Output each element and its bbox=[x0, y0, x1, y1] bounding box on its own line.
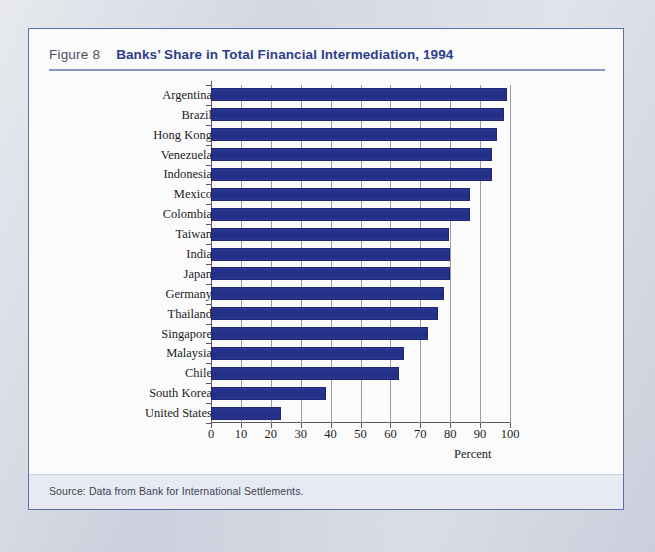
bar bbox=[211, 208, 470, 221]
bar bbox=[211, 307, 438, 320]
x-axis-tick-label: 50 bbox=[354, 427, 367, 442]
header-divider bbox=[49, 69, 605, 71]
bar bbox=[211, 267, 450, 280]
bar-row bbox=[211, 347, 510, 360]
bar-row bbox=[211, 327, 510, 340]
x-axis-tick-label: 40 bbox=[324, 427, 337, 442]
bar-row bbox=[211, 248, 510, 261]
y-axis-label: Thailand bbox=[124, 308, 212, 321]
y-axis-tick bbox=[206, 343, 211, 344]
y-axis-labels: ArgentinaBrazilHong KongVenezuelaIndones… bbox=[124, 85, 212, 423]
y-axis-label: Malaysia bbox=[124, 347, 212, 360]
y-axis-label: Mexico bbox=[124, 188, 212, 201]
x-axis-tick-label: 30 bbox=[294, 427, 307, 442]
y-axis-label: India bbox=[124, 248, 212, 261]
bar-chart: ArgentinaBrazilHong KongVenezuelaIndones… bbox=[29, 75, 625, 473]
x-axis-tick-label: 0 bbox=[208, 427, 214, 442]
bar-row bbox=[211, 208, 510, 221]
y-axis-tick bbox=[206, 184, 211, 185]
bar bbox=[211, 387, 326, 400]
gridline bbox=[510, 85, 511, 423]
y-axis-tick bbox=[206, 403, 211, 404]
y-axis-tick bbox=[206, 324, 211, 325]
bar-row bbox=[211, 148, 510, 161]
y-axis-label: Taiwan bbox=[124, 228, 212, 241]
source-note: Source: Data from Bank for International… bbox=[49, 485, 304, 497]
bar-row bbox=[211, 168, 510, 181]
bar-row bbox=[211, 387, 510, 400]
bar bbox=[211, 367, 399, 380]
y-axis-tick bbox=[206, 264, 211, 265]
y-axis-tick bbox=[206, 85, 211, 86]
y-axis-label: Hong Kong bbox=[124, 129, 212, 142]
x-axis-tick-labels: 0102030405060708090100 bbox=[211, 427, 521, 445]
bar-row bbox=[211, 188, 510, 201]
bar bbox=[211, 327, 428, 340]
x-axis-tick-label: 70 bbox=[414, 427, 427, 442]
y-axis-tick bbox=[206, 145, 211, 146]
bar-row bbox=[211, 307, 510, 320]
bar-row bbox=[211, 228, 510, 241]
x-axis-tick-label: 10 bbox=[235, 427, 248, 442]
y-axis-tick bbox=[206, 224, 211, 225]
x-axis-tick-label: 20 bbox=[265, 427, 278, 442]
y-axis-tick bbox=[206, 165, 211, 166]
bar bbox=[211, 228, 449, 241]
y-axis-label: Germany bbox=[124, 288, 212, 301]
y-axis-tick bbox=[206, 363, 211, 364]
bar bbox=[211, 108, 504, 121]
y-axis-tick bbox=[206, 304, 211, 305]
bar-row bbox=[211, 128, 510, 141]
chart-container: ArgentinaBrazilHong KongVenezuelaIndones… bbox=[29, 75, 625, 473]
x-axis-tick-label: 80 bbox=[444, 427, 457, 442]
y-axis-label: United States bbox=[124, 407, 212, 420]
bar bbox=[211, 188, 470, 201]
x-axis-tick-label: 90 bbox=[474, 427, 487, 442]
y-axis-tick bbox=[206, 105, 211, 106]
figure-header: Figure 8 Banks’ Share in Total Financial… bbox=[49, 39, 605, 69]
y-axis-label: Singapore bbox=[124, 328, 212, 341]
plot-area bbox=[211, 85, 510, 423]
x-axis-tick-label: 100 bbox=[501, 427, 520, 442]
y-axis-label: Chile bbox=[124, 367, 212, 380]
bar-row bbox=[211, 108, 510, 121]
y-axis-tick bbox=[206, 244, 211, 245]
bar bbox=[211, 168, 492, 181]
figure-card: Figure 8 Banks’ Share in Total Financial… bbox=[28, 28, 624, 510]
y-axis-label: Venezuela bbox=[124, 149, 212, 162]
bar-row bbox=[211, 287, 510, 300]
y-axis-tick bbox=[206, 284, 211, 285]
bar bbox=[211, 407, 281, 420]
bar bbox=[211, 88, 507, 101]
y-axis-label: Brazil bbox=[124, 109, 212, 122]
y-axis-label: Japan bbox=[124, 268, 212, 281]
y-axis-label: Colombia bbox=[124, 208, 212, 221]
figure-number: Figure 8 bbox=[49, 47, 100, 62]
source-band: Source: Data from Bank for International… bbox=[29, 474, 623, 509]
figure-title: Banks’ Share in Total Financial Intermed… bbox=[116, 47, 453, 62]
bar-row bbox=[211, 367, 510, 380]
x-axis-tick-label: 60 bbox=[384, 427, 397, 442]
bar bbox=[211, 248, 450, 261]
y-axis-label: Argentina bbox=[124, 89, 212, 102]
bar bbox=[211, 148, 492, 161]
y-axis-tick bbox=[206, 383, 211, 384]
bar bbox=[211, 287, 444, 300]
bar bbox=[211, 128, 497, 141]
bar-row bbox=[211, 407, 510, 420]
y-axis-tick bbox=[206, 125, 211, 126]
y-axis-tick bbox=[206, 204, 211, 205]
y-axis-label: Indonesia bbox=[124, 168, 212, 181]
x-axis-title: Percent bbox=[454, 447, 491, 462]
y-axis-tick bbox=[206, 423, 211, 424]
bar bbox=[211, 347, 404, 360]
y-axis-label: South Korea bbox=[124, 387, 212, 400]
bar-row bbox=[211, 88, 510, 101]
bar-row bbox=[211, 267, 510, 280]
